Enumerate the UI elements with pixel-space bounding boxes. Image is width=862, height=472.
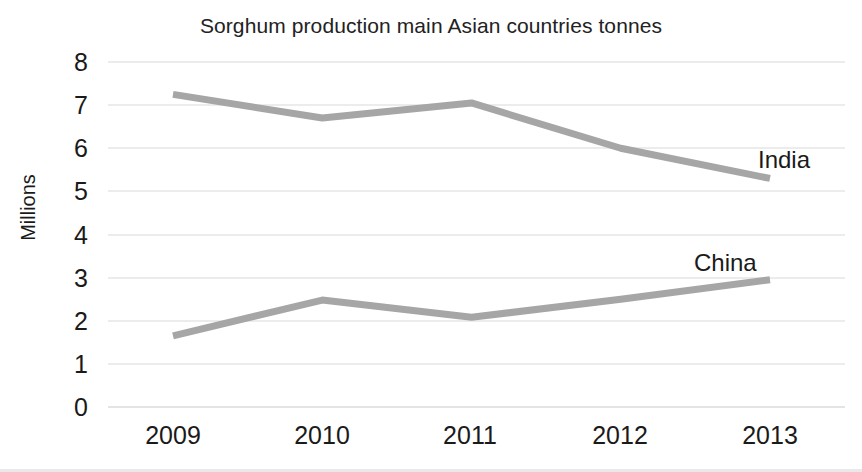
x-tick-label-2011: 2011 xyxy=(410,423,530,448)
series-lines-group xyxy=(0,0,862,472)
plot-area: 8 7 6 5 4 3 2 1 0 Millions India China 2… xyxy=(0,0,862,472)
x-tick-label-2010: 2010 xyxy=(262,423,382,448)
series-line-india xyxy=(173,94,770,178)
series-line-china xyxy=(173,280,770,336)
series-label-china: China xyxy=(694,251,757,275)
series-label-india: India xyxy=(758,148,810,172)
x-tick-label-2013: 2013 xyxy=(710,423,830,448)
chart-figure: Sorghum production main Asian countries … xyxy=(0,0,862,472)
x-tick-label-2009: 2009 xyxy=(113,423,233,448)
x-tick-label-2012: 2012 xyxy=(560,423,680,448)
